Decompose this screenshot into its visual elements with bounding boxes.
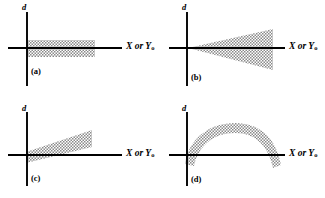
- figure-root: d X or Yo (a) d X or Yo (b): [0, 0, 325, 198]
- panel-d: d X or Yo (d): [163, 99, 325, 198]
- vertical-axis-label-a: d: [22, 3, 26, 12]
- horizontal-axis-label-subscript-c: o: [151, 151, 154, 158]
- vertical-axis-label-b: d: [182, 3, 186, 12]
- panel-a: d X or Yo (a): [0, 0, 162, 99]
- vertical-axis-label-c: d: [22, 104, 26, 113]
- horizontal-axis-label-d: X or Yo: [289, 149, 317, 159]
- horizontal-axis-label-subscript-a: o: [151, 44, 154, 51]
- panel-caption-d: (d): [191, 175, 201, 184]
- horizontal-axis-label-b: X or Yo: [289, 42, 317, 52]
- horizontal-axis-label-main-c: X or Y: [126, 148, 151, 158]
- horizontal-axis-label-subscript-d: o: [314, 151, 317, 158]
- horizontal-axis-label-a: X or Yo: [126, 42, 154, 52]
- shaded-region-c: [26, 130, 92, 163]
- shaded-region-d: [185, 123, 281, 168]
- panel-caption-a: (a): [31, 67, 41, 76]
- horizontal-axis-label-main-a: X or Y: [126, 41, 151, 51]
- horizontal-axis-label-main-b: X or Y: [289, 41, 314, 51]
- panel-c: d X or Yo (c): [0, 99, 162, 198]
- vertical-axis-label-d: d: [182, 104, 186, 113]
- horizontal-axis-label-subscript-b: o: [314, 44, 317, 51]
- panel-caption-b: (b): [191, 73, 201, 82]
- horizontal-axis-label-main-d: X or Y: [289, 148, 314, 158]
- panel-caption-c: (c): [31, 174, 40, 183]
- panel-b: d X or Yo (b): [163, 0, 325, 99]
- horizontal-axis-label-c: X or Yo: [126, 149, 154, 159]
- shaded-region-b: [188, 29, 273, 70]
